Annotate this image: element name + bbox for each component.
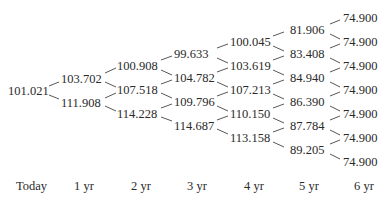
edge bbox=[49, 82, 59, 86]
node-6yr-5: 74.900 bbox=[343, 131, 377, 145]
edge bbox=[273, 118, 284, 123]
node-6yr-1: 74.900 bbox=[343, 35, 377, 49]
edge bbox=[273, 56, 284, 60]
edge bbox=[217, 68, 228, 72]
node-5yr-1: 83.408 bbox=[290, 47, 324, 61]
edge bbox=[217, 82, 228, 87]
node-3yr-1: 104.782 bbox=[174, 71, 215, 85]
node-today-0: 101.021 bbox=[8, 84, 49, 98]
node-2yr-1: 107.518 bbox=[117, 83, 158, 97]
node-5yr-4: 87.784 bbox=[290, 119, 324, 133]
edge bbox=[161, 80, 172, 84]
edge bbox=[330, 82, 340, 87]
edge bbox=[330, 140, 340, 144]
edge bbox=[217, 44, 228, 48]
time-label-4yr: 4 yr bbox=[244, 179, 264, 193]
node-6yr-3: 74.900 bbox=[343, 83, 377, 97]
time-label-3yr: 3 yr bbox=[187, 179, 207, 193]
edge bbox=[273, 142, 284, 147]
edge bbox=[330, 68, 340, 72]
time-label-1yr: 1 yr bbox=[74, 179, 94, 193]
edge bbox=[273, 94, 284, 99]
node-4yr-4: 113.158 bbox=[230, 131, 270, 145]
node-5yr-3: 86.390 bbox=[290, 95, 324, 109]
edge bbox=[105, 93, 116, 98]
edge bbox=[217, 58, 228, 63]
edge bbox=[105, 68, 116, 73]
edge bbox=[161, 104, 172, 108]
edge bbox=[217, 116, 228, 120]
time-label-today: Today bbox=[16, 179, 47, 193]
edge bbox=[217, 129, 228, 134]
time-label-5yr: 5 yr bbox=[299, 179, 319, 193]
edge bbox=[330, 130, 340, 135]
node-6yr-2: 74.900 bbox=[343, 59, 377, 73]
edge bbox=[217, 106, 228, 111]
node-5yr-2: 84.940 bbox=[290, 71, 324, 85]
node-3yr-0: 99.633 bbox=[174, 47, 208, 61]
node-6yr-0: 74.900 bbox=[343, 11, 377, 25]
edge bbox=[161, 117, 172, 121]
node-4yr-1: 103.619 bbox=[230, 59, 271, 73]
node-5yr-0: 81.906 bbox=[290, 23, 324, 37]
edge bbox=[49, 95, 59, 99]
edge bbox=[330, 34, 340, 39]
edge bbox=[330, 154, 340, 159]
edge bbox=[273, 104, 284, 108]
edge bbox=[330, 20, 340, 24]
edge bbox=[273, 70, 284, 75]
edge bbox=[105, 106, 116, 111]
edge bbox=[273, 32, 284, 36]
node-1yr-1: 111.908 bbox=[61, 96, 101, 110]
node-6yr-4: 74.900 bbox=[343, 107, 377, 121]
node-4yr-3: 110.150 bbox=[230, 107, 270, 121]
time-label-2yr: 2 yr bbox=[131, 179, 151, 193]
edge bbox=[330, 58, 340, 63]
edge bbox=[161, 56, 172, 60]
edge bbox=[330, 92, 340, 96]
node-3yr-2: 109.796 bbox=[174, 95, 215, 109]
edge bbox=[330, 44, 340, 48]
edge bbox=[105, 82, 116, 87]
node-6yr-6: 74.900 bbox=[343, 155, 377, 169]
edge bbox=[161, 70, 172, 75]
edge bbox=[273, 128, 284, 132]
edge bbox=[273, 46, 284, 51]
node-1yr-0: 103.702 bbox=[61, 72, 102, 86]
time-label-6yr: 6 yr bbox=[354, 179, 374, 193]
edge bbox=[273, 80, 284, 84]
node-5yr-5: 89.205 bbox=[290, 143, 324, 157]
node-4yr-0: 100.045 bbox=[230, 35, 271, 49]
edge bbox=[161, 93, 172, 98]
node-3yr-3: 114.687 bbox=[174, 119, 214, 133]
node-2yr-0: 100.908 bbox=[117, 59, 158, 73]
edge bbox=[217, 92, 228, 96]
node-4yr-2: 107.213 bbox=[230, 83, 271, 97]
edge bbox=[330, 116, 340, 120]
edge bbox=[330, 106, 340, 111]
node-2yr-2: 114.228 bbox=[117, 107, 157, 121]
